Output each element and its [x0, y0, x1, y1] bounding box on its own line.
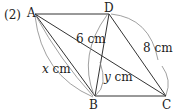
- label-x-cm: x cm: [42, 62, 71, 76]
- point-A-label: A: [26, 6, 36, 20]
- problem-number: (2): [4, 8, 21, 22]
- arc-x-inner: [36, 16, 93, 96]
- point-B-label: B: [89, 98, 98, 110]
- diagonal-AC: [35, 14, 166, 96]
- parallelogram-diagram: (2) A D B C 6 cm 8 cm x cm y cm: [0, 0, 183, 110]
- figure-lines: [35, 14, 166, 96]
- point-D-label: D: [104, 1, 114, 15]
- point-C-label: C: [162, 98, 171, 110]
- unit-y: cm: [111, 70, 134, 84]
- label-8cm: 8 cm: [143, 41, 173, 55]
- arc-x: [35, 16, 93, 97]
- label-y-cm: y cm: [103, 70, 133, 84]
- arc-8cm-bottom: [162, 66, 168, 95]
- segment-AB: [35, 14, 95, 96]
- label-6cm: 6 cm: [76, 32, 106, 46]
- unit-x: cm: [49, 62, 72, 76]
